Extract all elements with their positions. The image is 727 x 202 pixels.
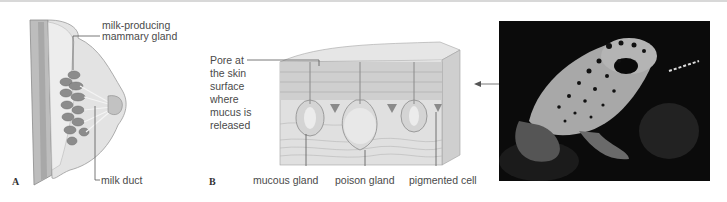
label-mammary-gland-line2: mammary gland — [102, 30, 177, 43]
label-pore-line6: released — [210, 119, 250, 132]
panel-letter-b: B — [209, 176, 216, 187]
label-poison-gland: poison gland — [335, 174, 395, 187]
label-pore-line4: where — [210, 93, 239, 106]
label-pore-line3: surface — [210, 80, 244, 93]
label-pore-line1: Pore at — [210, 54, 244, 67]
label-pigmented-cell: pigmented cell — [409, 174, 477, 187]
frog-photo — [499, 21, 710, 181]
mammary-illustration — [30, 20, 126, 185]
label-pore-line2: the skin — [210, 67, 246, 80]
skin-cross-section — [280, 42, 460, 165]
frog-image — [499, 21, 710, 181]
label-mucous-gland: mucous gland — [253, 174, 318, 187]
panel-letter-a: A — [12, 176, 19, 187]
label-milk-duct: milk duct — [101, 174, 142, 187]
label-pore-line5: mucus is — [210, 106, 251, 119]
